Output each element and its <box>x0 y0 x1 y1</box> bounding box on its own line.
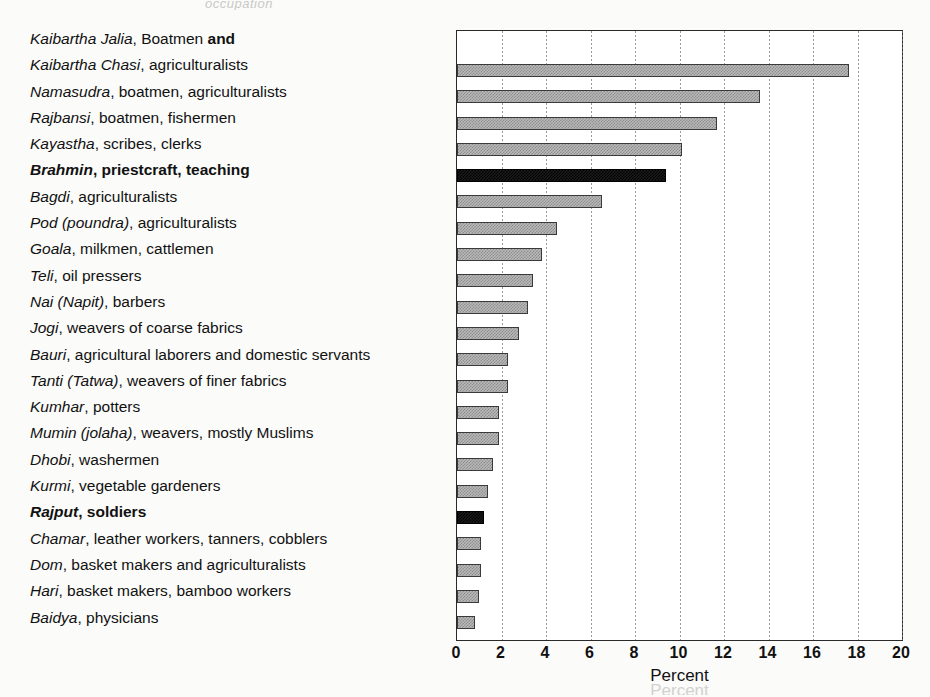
category-label: Dhobi, washermen <box>30 447 450 473</box>
bar-row[interactable] <box>457 373 902 399</box>
category-label: Baidya, physicians <box>30 605 450 631</box>
occupation-text: , agriculturalists <box>140 56 248 73</box>
bar[interactable] <box>457 117 717 130</box>
bar[interactable] <box>457 380 508 393</box>
occupation-text: , boatmen, fishermen <box>90 109 236 126</box>
occupation-text: , oil pressers <box>54 267 142 284</box>
caste-name: Brahmin <box>30 161 93 178</box>
bar[interactable] <box>457 511 484 524</box>
category-label: Nai (Napit), barbers <box>30 289 450 315</box>
category-label: Jogi, weavers of coarse fabrics <box>30 315 450 341</box>
bar[interactable] <box>457 248 542 261</box>
x-tick-label: 12 <box>714 644 732 662</box>
bar-row[interactable] <box>457 452 902 478</box>
caste-name: Jogi <box>30 319 58 336</box>
bar[interactable] <box>457 353 508 366</box>
bar-row[interactable] <box>457 294 902 320</box>
caste-name: Kaibartha Jalia <box>30 30 133 47</box>
occupation-text: , agriculturalists <box>129 214 237 231</box>
caste-name: Chamar <box>30 530 85 547</box>
occupation-text: , washermen <box>71 451 160 468</box>
bar[interactable] <box>457 590 479 603</box>
bar[interactable] <box>457 222 557 235</box>
bar-row[interactable] <box>457 531 902 557</box>
bar-row[interactable] <box>457 347 902 373</box>
x-tick-label: 2 <box>496 644 505 662</box>
caste-name: Kaibartha Chasi <box>30 56 140 73</box>
occupation-text: , soldiers <box>78 503 146 520</box>
caste-name: Teli <box>30 267 54 284</box>
bar-series <box>457 31 902 640</box>
label-conjunction: and <box>208 30 236 47</box>
scan-artifact-top: occupation <box>205 0 465 10</box>
bar[interactable] <box>457 64 849 77</box>
bar-row[interactable] <box>457 215 902 241</box>
bar-row[interactable] <box>457 110 902 136</box>
scan-artifact-bottom: Percent <box>456 681 903 695</box>
bar-row[interactable] <box>457 57 902 83</box>
bar-row[interactable] <box>457 163 902 189</box>
category-label: Kumhar, potters <box>30 394 450 420</box>
occupation-text: , barbers <box>104 293 165 310</box>
x-tick-label: 0 <box>452 644 461 662</box>
category-label: Goala, milkmen, cattlemen <box>30 236 450 262</box>
bar[interactable] <box>457 406 499 419</box>
category-label: Rajbansi, boatmen, fishermen <box>30 105 450 131</box>
category-label: Kaibartha Jalia, Boatmen and <box>30 26 450 52</box>
bar-row[interactable] <box>457 426 902 452</box>
bar[interactable] <box>457 564 481 577</box>
occupation-text: , priestcraft, teaching <box>93 161 250 178</box>
bar-row[interactable] <box>457 136 902 162</box>
bar[interactable] <box>457 143 682 156</box>
occupation-text: , agricultural laborers and domestic ser… <box>66 346 370 363</box>
bar[interactable] <box>457 485 488 498</box>
caste-name: Pod (poundra) <box>30 214 129 231</box>
bar-row[interactable] <box>457 557 902 583</box>
occupation-text: , boatmen, agriculturalists <box>110 83 287 100</box>
x-tick-label: 6 <box>585 644 594 662</box>
bar-row[interactable] <box>457 478 902 504</box>
bar[interactable] <box>457 301 528 314</box>
plot-area <box>456 30 903 641</box>
bar[interactable] <box>457 458 493 471</box>
category-label: Bauri, agricultural laborers and domesti… <box>30 342 450 368</box>
x-tick-label: 10 <box>670 644 688 662</box>
category-label: Brahmin, priestcraft, teaching <box>30 157 450 183</box>
occupation-text: , leather workers, tanners, cobblers <box>85 530 327 547</box>
category-label: Chamar, leather workers, tanners, cobble… <box>30 526 450 552</box>
caste-name: Bauri <box>30 346 66 363</box>
occupation-text: , weavers of finer fabrics <box>118 372 286 389</box>
category-label: Mumin (jolaha), weavers, mostly Muslims <box>30 420 450 446</box>
bar[interactable] <box>457 432 499 445</box>
bar-row[interactable] <box>457 189 902 215</box>
bar[interactable] <box>457 195 602 208</box>
bar[interactable] <box>457 274 533 287</box>
bar-row[interactable] <box>457 320 902 346</box>
caste-name: Dhobi <box>30 451 71 468</box>
x-tick-label: 18 <box>848 644 866 662</box>
bar-row[interactable] <box>457 583 902 609</box>
bar[interactable] <box>457 169 666 182</box>
occupation-text: , physicians <box>77 609 158 626</box>
caste-name: Rajbansi <box>30 109 90 126</box>
bar-row[interactable] <box>457 504 902 530</box>
caste-name: Bagdi <box>30 188 70 205</box>
bar-row[interactable] <box>457 268 902 294</box>
bar[interactable] <box>457 616 475 629</box>
bar-row[interactable] <box>457 84 902 110</box>
occupation-text: , weavers of coarse fabrics <box>58 319 242 336</box>
bar[interactable] <box>457 327 519 340</box>
occupation-text: , scribes, clerks <box>95 135 202 152</box>
bar[interactable] <box>457 90 760 103</box>
occupation-text: , weavers, mostly Muslims <box>133 424 314 441</box>
x-tick-label: 14 <box>759 644 777 662</box>
bar[interactable] <box>457 537 481 550</box>
caste-name: Hari <box>30 582 58 599</box>
x-tick-label: 16 <box>803 644 821 662</box>
bar-row[interactable] <box>457 610 902 636</box>
x-tick-label: 20 <box>892 644 910 662</box>
bar-row[interactable] <box>457 399 902 425</box>
caste-name: Namasudra <box>30 83 110 100</box>
occupation-text: , potters <box>84 398 140 415</box>
bar-row[interactable] <box>457 241 902 267</box>
